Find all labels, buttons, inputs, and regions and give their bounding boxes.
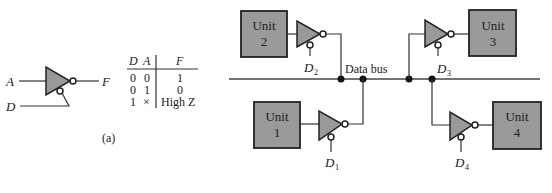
enable-d-label: D	[5, 99, 16, 114]
unit-4-group: D 4 Unit 4	[429, 76, 542, 173]
enable-d3-label: D	[436, 61, 447, 76]
unit-1-group: Unit 1 D 1	[254, 76, 367, 173]
unit-2-number: 2	[261, 34, 268, 49]
unit-3-number: 3	[490, 34, 497, 49]
data-bus-label: Data bus	[345, 62, 388, 76]
bus-junction-dot	[338, 76, 345, 83]
unit-4-number: 4	[514, 125, 521, 140]
unit-2-bus-wire	[326, 34, 341, 79]
truth-table-cell: 1	[130, 95, 136, 109]
truth-table-header-a: A	[142, 54, 151, 68]
figure-a-caption: (a)	[102, 131, 115, 145]
enable-d2-subscript: 2	[314, 68, 318, 77]
enable-d-wire	[20, 93, 69, 106]
unit-2-name: Unit	[252, 18, 276, 33]
unit-3-group: D 3 Unit 3	[406, 10, 517, 83]
inversion-bubble-icon	[70, 78, 76, 84]
enable-bubble-icon	[328, 134, 334, 140]
truth-table-cell: High Z	[161, 95, 195, 109]
input-a-label: A	[5, 74, 14, 89]
truth-table: D A F 0 0 1 0 1 0 1 × High Z	[127, 54, 198, 109]
unit-4-bus-wire	[432, 79, 450, 125]
inversion-bubble-icon	[472, 122, 478, 128]
truth-table-header-d: D	[128, 54, 138, 68]
unit-4-name: Unit	[505, 109, 529, 124]
tristate-bus-diagram: A F D D A F 0 0 1 0 1 0 1 × High Z	[0, 0, 552, 193]
figure-a: A F D D A F 0 0 1 0 1 0 1 × High Z	[5, 54, 198, 145]
unit-1-name: Unit	[265, 109, 289, 124]
enable-bubble-icon	[307, 42, 313, 48]
enable-d3-subscript: 3	[447, 69, 451, 78]
enable-d4-subscript: 4	[465, 163, 469, 172]
unit-3-bus-wire	[409, 34, 425, 79]
inversion-bubble-icon	[342, 121, 348, 127]
output-f-label: F	[101, 74, 111, 89]
figure-b: Data bus Unit 2 D 2 Unit 1	[229, 10, 541, 172]
enable-d1-label: D	[324, 155, 335, 170]
enable-bubble-icon	[458, 134, 464, 140]
unit-1-number: 1	[274, 125, 281, 140]
unit-2-group: Unit 2 D 2	[241, 11, 345, 83]
enable-bubble-icon	[435, 42, 441, 48]
unit-3-name: Unit	[481, 18, 505, 33]
inversion-bubble-icon	[448, 31, 454, 37]
enable-d2-label: D	[303, 60, 314, 75]
truth-table-header-f: F	[175, 54, 184, 68]
inversion-bubble-icon	[320, 31, 326, 37]
unit-1-bus-wire	[346, 79, 363, 124]
enable-d4-label: D	[454, 155, 465, 170]
truth-table-cell: ×	[143, 95, 150, 109]
enable-d1-subscript: 1	[335, 163, 339, 172]
unit-3-box	[469, 10, 516, 56]
